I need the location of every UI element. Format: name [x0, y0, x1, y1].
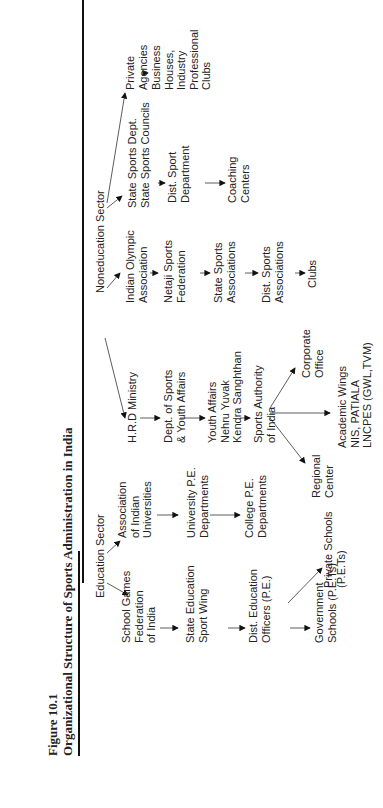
node-dept-sports-youth-affairs: Dept. of Sports & Youth Affairs — [162, 370, 187, 443]
node-corporate-office: Corporate Office — [300, 329, 325, 378]
node-dist-education-officers: Dist. Education Officers (P.E.) — [247, 569, 272, 643]
node-state-sports-dept: State Sports Dept. State Sports Councils — [126, 102, 151, 208]
org-chart-diagram: Figure 10.1 Organizational Structure of … — [0, 0, 383, 808]
node-private-agencies: Private Agencies — [124, 45, 149, 90]
connector-arrows — [0, 0, 383, 808]
node-dist-sports-associations: Dist. Sports Associations — [260, 241, 285, 303]
noneducation-sector-label: Noneducation Sector — [94, 190, 107, 293]
node-college-pe-departments: College P.E. Departments — [243, 475, 268, 538]
node-state-sports-associations: State Sports Associations — [212, 241, 237, 303]
node-dist-sport-department: Dist. Sport Department — [166, 146, 191, 203]
node-academic-wings: Academic Wings NIS, PATIALA LNCPES (GWL,… — [336, 342, 374, 448]
node-private-schools: Private Schools (P.E.Ts) — [322, 512, 347, 588]
node-netaji-sports-federation: Netaji Sports Federation — [162, 240, 187, 303]
node-regional-center: Regional Center — [310, 455, 335, 498]
education-sector-label: Education Sector — [94, 514, 107, 598]
node-sports-authority-of-india: Sports Authority of India — [252, 365, 277, 443]
node-clubs: Clubs — [306, 260, 319, 288]
node-youth-affairs-nyks: Youth Affairs Nehru Yuvak Kendra Sanghth… — [206, 351, 244, 443]
node-hrd-ministry: H.R.D Ministry — [126, 372, 139, 443]
node-state-education-sport-wing: State Education Sport Wing — [184, 565, 209, 643]
node-business-houses: Business Houses, Industry Professional C… — [150, 29, 213, 90]
node-coaching-centers: Coaching Centers — [226, 157, 251, 203]
node-association-indian-universities: Association of Indian Universities — [116, 481, 154, 538]
node-school-games-federation: School Games Federation of India — [120, 571, 158, 643]
node-indian-olympic-association: Indian Olympic Association — [124, 230, 149, 303]
node-university-pe-departments: University P.E. Departments — [185, 467, 210, 538]
